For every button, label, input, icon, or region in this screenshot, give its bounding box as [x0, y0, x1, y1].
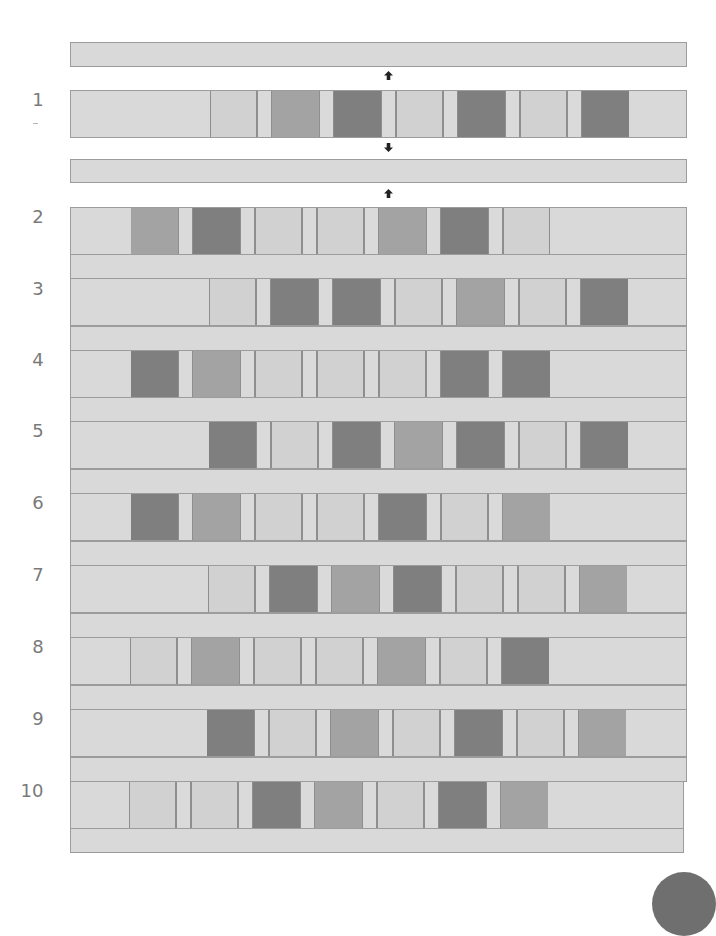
medium-block: [580, 566, 627, 612]
quilt-row: [70, 278, 687, 326]
row-label: 8: [18, 636, 58, 657]
row-background: [71, 351, 131, 397]
light-block: [255, 494, 302, 540]
narrow-strip: [505, 91, 520, 137]
row-background: [71, 638, 130, 684]
narrow-strip: [240, 208, 255, 254]
light-block: [316, 638, 363, 684]
narrow-strip: [301, 638, 316, 684]
narrow-strip: [426, 494, 441, 540]
narrow-strip: [442, 422, 457, 468]
row-background: [71, 782, 129, 828]
quilt-row: [70, 207, 687, 255]
narrow-strip: [257, 91, 272, 137]
row-background: [71, 566, 208, 612]
narrow-strip: [302, 208, 317, 254]
narrow-strip: [426, 208, 441, 254]
row-label: 5: [18, 420, 58, 441]
medium-block: [501, 782, 548, 828]
light-block: [519, 279, 566, 325]
sashing-strip: [70, 326, 687, 351]
dark-block: [333, 422, 380, 468]
dark-block: [333, 279, 380, 325]
narrow-strip: [441, 566, 456, 612]
narrow-strip: [363, 638, 378, 684]
narrow-strip: [176, 782, 191, 828]
narrow-strip: [504, 279, 519, 325]
dark-block: [379, 494, 426, 540]
medium-block: [332, 566, 379, 612]
narrow-strip: [426, 351, 441, 397]
dark-block: [334, 91, 381, 137]
narrow-strip: [240, 351, 255, 397]
light-block: [129, 782, 176, 828]
quilt-row: [70, 781, 684, 829]
narrow-strip: [503, 566, 518, 612]
scan-mark: [33, 123, 38, 124]
sashing-strip: [70, 397, 687, 422]
narrow-strip: [302, 351, 317, 397]
light-block: [317, 351, 364, 397]
light-block: [317, 494, 364, 540]
narrow-strip: [240, 494, 255, 540]
medium-block: [395, 422, 442, 468]
light-block: [395, 279, 442, 325]
row-background: [71, 710, 207, 756]
row-background: [71, 208, 131, 254]
dark-block: [131, 494, 178, 540]
narrow-strip: [239, 638, 254, 684]
dark-block: [581, 422, 628, 468]
light-block: [520, 91, 567, 137]
sashing-strip: [70, 757, 687, 782]
medium-block: [315, 782, 362, 828]
light-block: [440, 638, 487, 684]
narrow-strip: [255, 566, 270, 612]
medium-block: [131, 208, 178, 254]
dark-block: [207, 710, 254, 756]
narrow-strip: [566, 279, 581, 325]
light-block: [396, 91, 443, 137]
quilt-row: [70, 493, 687, 541]
row-label: 7: [18, 564, 58, 585]
narrow-strip: [565, 566, 580, 612]
medium-block: [378, 638, 425, 684]
narrow-strip: [318, 422, 333, 468]
medium-block: [331, 710, 378, 756]
sashing-strip: [70, 469, 687, 494]
arrow-down-icon: [384, 143, 393, 152]
row-background: [71, 494, 131, 540]
sashing-strip: [70, 254, 687, 279]
light-block: [517, 710, 564, 756]
narrow-strip: [379, 566, 394, 612]
row-label: 1: [18, 89, 58, 110]
dark-block: [441, 208, 488, 254]
narrow-strip: [364, 494, 379, 540]
narrow-strip: [488, 494, 503, 540]
medium-block: [579, 710, 626, 756]
narrow-strip: [256, 422, 271, 468]
row-label: 2: [18, 206, 58, 227]
dark-block: [455, 710, 502, 756]
arrow-up-icon: [384, 189, 393, 198]
row-background: [71, 279, 209, 325]
light-block: [519, 422, 566, 468]
narrow-strip: [567, 91, 582, 137]
dark-block: [582, 91, 629, 137]
dark-block: [441, 351, 488, 397]
quilt-row: [70, 565, 687, 613]
dark-block: [209, 422, 256, 468]
quilt-row: [70, 637, 687, 685]
row-background: [71, 91, 210, 137]
quilt-row: [70, 350, 687, 398]
dark-block: [458, 91, 505, 137]
medium-block: [457, 279, 504, 325]
narrow-strip: [178, 494, 193, 540]
light-block: [255, 208, 302, 254]
light-block: [209, 279, 256, 325]
narrow-strip: [486, 782, 501, 828]
sashing-strip-bottom: [70, 828, 684, 853]
narrow-strip: [317, 566, 332, 612]
light-block: [271, 422, 318, 468]
light-block: [441, 494, 488, 540]
dark-block: [270, 566, 317, 612]
